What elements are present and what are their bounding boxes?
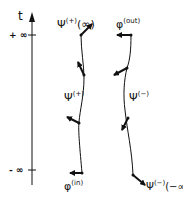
phi-out-label: φ(out) xyxy=(116,18,140,30)
phi-in-label: φ(in) xyxy=(64,180,83,192)
psi-plus-label: Ψ(+) xyxy=(64,91,84,103)
vector-arrow-icon xyxy=(114,68,127,75)
plus-infinity-label: + ∞ xyxy=(9,31,27,40)
psi-minus-minus-infinity-label: Ψ(−)(−∞) xyxy=(146,180,183,192)
axis-arrow-icon xyxy=(29,12,35,22)
axis-label-t: t xyxy=(18,10,23,22)
minus-infinity-label: - ∞ xyxy=(9,166,23,175)
time-axis xyxy=(28,12,36,185)
vector-arrow-icon xyxy=(133,175,145,185)
psi-minus-label: Ψ(−) xyxy=(129,91,149,103)
right-trajectory xyxy=(114,34,145,186)
psi-plus-infinity-label: Ψ(+)(∞) xyxy=(57,18,95,30)
vector-arrow-icon xyxy=(67,117,79,123)
